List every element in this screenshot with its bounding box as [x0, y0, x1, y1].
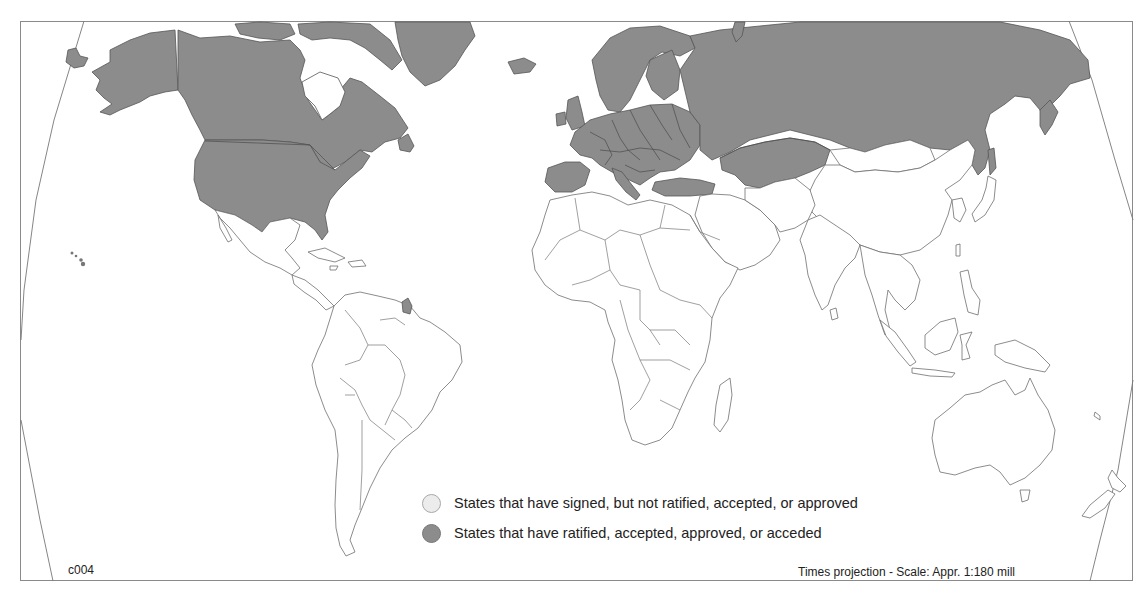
arctic-islands-1: [235, 22, 295, 40]
japan: [972, 176, 996, 222]
legend-item-signed: States that have signed, but not ratifie…: [422, 488, 858, 518]
philippines: [960, 270, 980, 315]
hawaii: [71, 252, 86, 267]
alaska: [92, 30, 178, 115]
legend-item-ratified: States that have ratified, accepted, app…: [422, 518, 858, 548]
central-america: [292, 275, 334, 310]
borneo: [925, 318, 958, 355]
turkey: [652, 178, 715, 196]
projection-edge-left-bottom: [21, 420, 53, 581]
legend-label-signed: States that have signed, but not ratifie…: [454, 495, 858, 511]
australia: [932, 378, 1055, 485]
arctic-islands-2: [298, 22, 402, 70]
southeast-asia: [860, 245, 920, 335]
north-america: [66, 22, 414, 240]
madagascar: [714, 378, 732, 432]
iberia: [545, 162, 590, 192]
europe: [545, 26, 715, 200]
sri-lanka: [830, 308, 838, 320]
tasmania: [1020, 490, 1030, 502]
french-guiana: [402, 298, 412, 314]
cuba: [308, 248, 345, 262]
ratified-swatch-icon: [422, 524, 441, 543]
sakhalin: [988, 148, 996, 175]
legend-label-ratified: States that have ratified, accepted, app…: [454, 525, 822, 541]
legend: States that have signed, but not ratifie…: [422, 488, 858, 548]
projection-note: Times projection - Scale: Appr. 1:180 mi…: [798, 565, 1015, 579]
ireland: [556, 112, 566, 126]
greenland: [395, 22, 475, 86]
new-zealand-south: [1082, 490, 1115, 518]
sulawesi: [960, 332, 972, 360]
uk: [566, 96, 585, 130]
java: [912, 368, 955, 377]
hispaniola: [348, 260, 366, 267]
jamaica: [330, 266, 338, 270]
continental-europe: [570, 104, 700, 185]
iceland: [508, 58, 536, 74]
signed-swatch-icon: [422, 494, 441, 513]
oceania: [932, 378, 1126, 518]
aleutian-islands: [66, 48, 88, 68]
map-code: c004: [68, 563, 94, 577]
sumatra: [880, 320, 916, 366]
korea: [952, 198, 966, 222]
new-guinea: [995, 340, 1050, 372]
taiwan: [956, 244, 960, 256]
projection-edge-left: [21, 21, 84, 340]
new-caledonia: [1094, 412, 1100, 420]
